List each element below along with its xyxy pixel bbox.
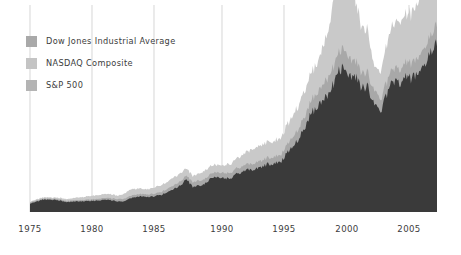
legend-label-sp500: S&P 500: [46, 80, 83, 91]
x-tick-2005: 2005: [397, 224, 420, 234]
x-tick-1995: 1995: [272, 224, 295, 234]
chart-figure: Dow Jones Industrial Average NASDAQ Comp…: [0, 0, 461, 255]
legend-swatch-dow-jones: [26, 36, 37, 47]
x-tick-1980: 1980: [80, 224, 103, 234]
legend-swatch-sp500: [26, 80, 37, 91]
legend-item-nasdaq[interactable]: NASDAQ Composite: [26, 52, 176, 74]
x-tick-1975: 1975: [18, 224, 41, 234]
x-tick-1985: 1985: [142, 224, 165, 234]
x-tick-2000: 2000: [335, 224, 358, 234]
x-tick-1990: 1990: [210, 224, 233, 234]
legend-item-dow-jones[interactable]: Dow Jones Industrial Average: [26, 30, 176, 52]
legend-swatch-nasdaq: [26, 58, 37, 69]
legend-label-nasdaq: NASDAQ Composite: [46, 58, 133, 69]
legend-label-dow-jones: Dow Jones Industrial Average: [46, 36, 176, 47]
chart-legend: Dow Jones Industrial Average NASDAQ Comp…: [26, 30, 176, 96]
legend-item-sp500[interactable]: S&P 500: [26, 74, 176, 96]
